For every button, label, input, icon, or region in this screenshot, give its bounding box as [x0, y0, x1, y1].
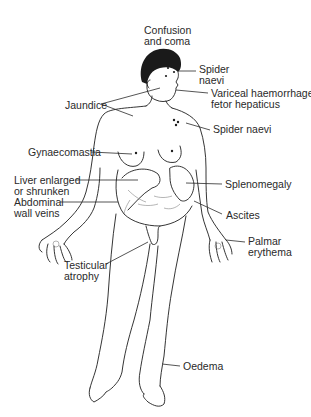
- spider-naevus-dot: [175, 124, 177, 126]
- right-leg-inner: [139, 246, 158, 394]
- spider-naevus-dot: [167, 67, 169, 69]
- ear: [147, 80, 150, 88]
- label-jaundice: Jaundice: [65, 100, 107, 111]
- label-oedema: Oedema: [183, 361, 223, 372]
- label-splenomegaly: Splenomegaly: [225, 179, 292, 190]
- label-variceal-haemorrhage: Variceal haemorrhage fetor hepaticus: [211, 88, 311, 110]
- neck-right: [166, 101, 172, 108]
- right-foot: [143, 386, 165, 406]
- abdominal-veins: [124, 190, 180, 214]
- hair: [141, 49, 181, 84]
- spider-naevus-dot: [173, 119, 175, 121]
- label-palmar-erythema: Palmar erythema: [248, 236, 292, 258]
- right-nipple: [171, 150, 173, 152]
- leader-splenomegaly: [186, 183, 222, 184]
- palmar-stipple: [53, 241, 59, 247]
- left-shoulder-arm: [42, 106, 146, 240]
- label-liver: Liver enlarged or shrunken: [14, 175, 81, 197]
- spider-naevus-dot: [177, 121, 179, 123]
- left-leg-outer: [90, 214, 116, 388]
- leader-variceal: [176, 90, 208, 93]
- label-spider-naevi-face: Spider naevi: [199, 64, 229, 86]
- leader-oedema: [162, 364, 180, 366]
- diagram-canvas: Confusion and coma Spider naevi Variceal…: [0, 0, 311, 417]
- label-ascites: Ascites: [226, 210, 260, 221]
- right-breast: [158, 146, 181, 163]
- label-confusion-coma: Confusion and coma: [144, 25, 191, 47]
- label-abdominal-wall-veins: Abdominal wall veins: [14, 197, 64, 219]
- label-spider-naevi-chest: Spider naevi: [213, 124, 271, 135]
- left-leg-inner: [112, 244, 150, 388]
- leader-palmar: [226, 240, 245, 242]
- left-nipple: [135, 152, 137, 154]
- abdomen-outline: [116, 170, 192, 226]
- spider-naevus-dot: [165, 75, 167, 77]
- spider-naevus-dot: [173, 71, 175, 73]
- label-gynaecomastia: Gynaecomastia: [28, 147, 101, 158]
- right-hand: [209, 240, 232, 262]
- label-testicular-atrophy: Testicular atrophy: [64, 260, 108, 282]
- groin: [146, 226, 160, 245]
- left-foot: [89, 388, 112, 402]
